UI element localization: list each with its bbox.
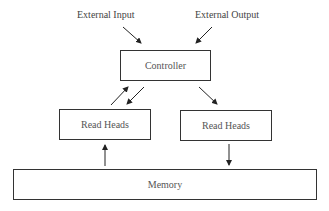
memory-box: Memory (13, 169, 317, 200)
controller-box: Controller (120, 50, 211, 81)
read-heads-left-box: Read Heads (59, 109, 151, 140)
arrow-input-to-controller (123, 27, 141, 43)
read-heads-left-label: Read Heads (81, 119, 129, 130)
external-input-label: External Input (77, 9, 134, 20)
arrow-controller-to-readheads-left (127, 87, 144, 104)
read-heads-right-label: Read Heads (202, 120, 250, 131)
memory-label: Memory (148, 179, 182, 190)
read-heads-right-box: Read Heads (180, 110, 272, 141)
arrow-controller-to-readheads-right (199, 87, 217, 104)
controller-label: Controller (145, 60, 186, 71)
arrow-output-to-controller (196, 27, 212, 43)
arrow-readheads-left-to-controller (111, 87, 128, 105)
external-output-label: External Output (195, 9, 259, 20)
